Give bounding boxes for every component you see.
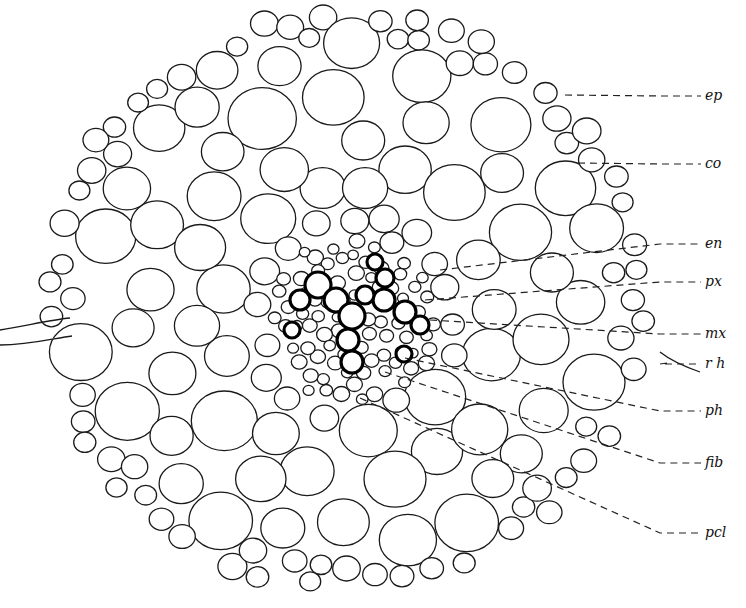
cell bbox=[374, 316, 387, 328]
cell bbox=[299, 29, 320, 48]
cell bbox=[40, 306, 63, 326]
cell bbox=[103, 167, 150, 210]
cell bbox=[422, 343, 437, 356]
cell bbox=[106, 478, 127, 497]
xylem-vessel bbox=[337, 329, 359, 351]
cell bbox=[362, 327, 376, 340]
cell bbox=[363, 564, 388, 586]
label-rh: r h bbox=[705, 355, 725, 371]
xylem-vessel bbox=[367, 254, 383, 270]
cell bbox=[452, 404, 508, 455]
cell bbox=[112, 309, 154, 347]
label-fib: fib bbox=[704, 454, 723, 470]
cell bbox=[258, 47, 301, 86]
cell bbox=[380, 330, 394, 343]
labels: epcoenpxmxr hphfibpcl bbox=[704, 87, 726, 540]
cell bbox=[380, 232, 404, 253]
cell bbox=[95, 382, 159, 440]
cell bbox=[404, 362, 419, 375]
cell bbox=[303, 70, 365, 126]
cell bbox=[400, 331, 414, 343]
cell bbox=[197, 265, 250, 313]
cell bbox=[128, 93, 149, 112]
cell bbox=[422, 252, 448, 275]
cell bbox=[288, 343, 299, 353]
cell bbox=[303, 211, 331, 236]
cell bbox=[420, 558, 444, 579]
cell bbox=[83, 128, 109, 151]
cell bbox=[227, 37, 248, 56]
xylem-vessel bbox=[356, 286, 374, 304]
cell bbox=[260, 148, 308, 192]
cell bbox=[282, 550, 307, 572]
cell bbox=[324, 340, 336, 351]
cell bbox=[76, 209, 136, 263]
cell bbox=[393, 50, 451, 103]
xylem-vessel bbox=[339, 303, 365, 329]
cell bbox=[439, 19, 465, 42]
cell bbox=[446, 51, 473, 76]
cell bbox=[519, 388, 568, 432]
cell bbox=[399, 377, 411, 388]
cell bbox=[246, 567, 269, 587]
cell bbox=[364, 354, 379, 367]
cell bbox=[303, 385, 314, 395]
cell bbox=[167, 64, 195, 90]
cell bbox=[196, 52, 238, 90]
cell bbox=[534, 83, 557, 104]
xylem-vessel bbox=[396, 346, 412, 362]
label-co: co bbox=[705, 155, 721, 171]
cell bbox=[268, 312, 281, 324]
cell bbox=[310, 555, 332, 574]
cell bbox=[537, 501, 562, 524]
cell bbox=[579, 148, 605, 172]
root-cross-section-diagram: epcoenpxmxr hphfibpcl bbox=[0, 0, 746, 608]
cell bbox=[339, 404, 397, 456]
cell bbox=[39, 272, 61, 292]
cell bbox=[71, 411, 95, 432]
cell bbox=[320, 385, 333, 396]
cell bbox=[513, 314, 569, 365]
cell bbox=[328, 244, 339, 254]
cell bbox=[301, 342, 315, 355]
cell bbox=[369, 11, 392, 32]
cell bbox=[236, 456, 286, 501]
cell bbox=[346, 377, 362, 391]
cell bbox=[472, 460, 514, 498]
cell bbox=[473, 53, 497, 75]
cell bbox=[299, 247, 310, 257]
cell bbox=[49, 324, 112, 381]
cell bbox=[169, 525, 195, 549]
cell bbox=[408, 31, 430, 50]
cell bbox=[543, 106, 571, 131]
cell bbox=[623, 234, 647, 256]
cell bbox=[390, 565, 414, 587]
cell bbox=[341, 208, 369, 233]
cell bbox=[417, 272, 429, 282]
xylem-vessel bbox=[284, 322, 300, 338]
cell bbox=[69, 181, 90, 200]
cell bbox=[468, 30, 494, 54]
cell bbox=[555, 468, 577, 488]
cell bbox=[333, 387, 350, 402]
label-ph: ph bbox=[705, 402, 723, 418]
cell bbox=[189, 492, 253, 549]
cell bbox=[441, 314, 465, 335]
xylem-vessel bbox=[373, 289, 395, 311]
cell bbox=[409, 281, 421, 292]
xylem-vessel bbox=[376, 269, 394, 287]
cell bbox=[251, 364, 281, 391]
cell bbox=[317, 374, 329, 385]
cell bbox=[457, 240, 501, 279]
cell bbox=[70, 383, 95, 406]
cell bbox=[502, 62, 526, 84]
leader-line bbox=[565, 95, 701, 96]
cell bbox=[442, 344, 467, 367]
cell bbox=[435, 494, 499, 551]
cell bbox=[366, 387, 382, 402]
cell bbox=[481, 154, 524, 193]
cell bbox=[280, 447, 334, 496]
cell bbox=[261, 508, 305, 548]
cell bbox=[310, 405, 339, 431]
cell bbox=[250, 258, 280, 285]
